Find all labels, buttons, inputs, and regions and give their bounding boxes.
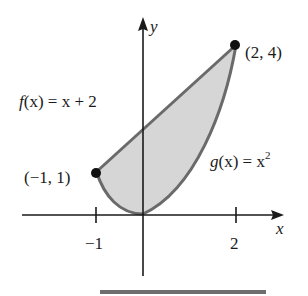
y-axis-label: y [148, 17, 158, 36]
area-between-curves-chart: −1 2 x y (2, 4) (−1, 1) f(x) = x + 2 g(x… [0, 0, 308, 296]
shaded-region [97, 45, 237, 214]
point-neg1-1 [91, 168, 101, 178]
tick-label-2: 2 [230, 234, 239, 253]
point-label-neg1-1: (−1, 1) [24, 168, 70, 187]
y-axis-arrow-icon [138, 17, 148, 31]
point-label-2-4: (2, 4) [245, 43, 282, 62]
tick-label-neg1: −1 [85, 234, 103, 253]
f-label: f(x) = x + 2 [19, 92, 97, 111]
bottom-bar [100, 290, 266, 294]
point-2-4 [230, 40, 240, 50]
x-axis-label: x [275, 219, 284, 238]
g-label: g(x) = x2 [210, 149, 270, 171]
